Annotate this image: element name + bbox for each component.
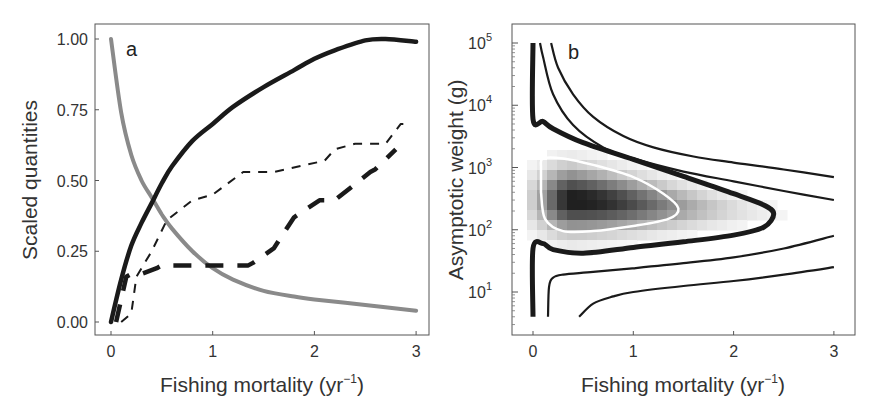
heatmap-cell [597, 210, 608, 221]
heatmap-cell [547, 200, 558, 211]
heatmap-cell [627, 230, 638, 241]
heatmap-cell [547, 180, 558, 191]
heatmap-cell [697, 200, 708, 211]
series-black-thick-dashed [116, 149, 396, 322]
heatmap-cell [577, 240, 588, 251]
heatmap-cell [737, 210, 748, 221]
heatmap-cell [607, 230, 618, 241]
heatmap-cell [547, 150, 558, 161]
panel-b: 0123101102103104105 b Asymptotic weight … [444, 24, 855, 396]
heatmap-cell [647, 200, 658, 211]
heatmap-cell [707, 220, 718, 231]
panel-a-label: a [126, 38, 138, 60]
panel-b-x-axis-label: Fishing mortality (yr−1) [581, 372, 785, 396]
heatmap-cell [567, 200, 578, 211]
series-black-solid-increasing [111, 39, 416, 322]
heatmap-cell [617, 210, 628, 221]
heatmap-cell [677, 190, 688, 201]
heatmap-cell [677, 220, 688, 231]
x-tick-label: 0 [529, 343, 538, 360]
heatmap-cell [527, 170, 538, 181]
heatmap-cell [527, 180, 538, 191]
heatmap-cell [577, 150, 588, 161]
y-tick-label: 103 [468, 156, 492, 177]
heatmap-cell [567, 170, 578, 181]
heatmap-cell [557, 170, 568, 181]
heatmap-cell [707, 190, 718, 201]
heatmap-cell [637, 200, 648, 211]
heatmap-cell [677, 230, 688, 241]
heatmap-cell [657, 180, 668, 191]
heatmap-cell [727, 200, 738, 211]
heatmap-cell [647, 190, 658, 201]
heatmap-cell [617, 160, 628, 171]
heatmap-cell [567, 220, 578, 231]
heatmap-cell [587, 240, 598, 251]
heatmap-cell [527, 200, 538, 211]
x-tick-label: 0 [107, 343, 116, 360]
x-tick-label: 3 [829, 343, 838, 360]
figure: 01230.000.250.500.751.00 a Scaled quanti… [0, 0, 873, 417]
heatmap-cell [567, 180, 578, 191]
heatmap-cell [587, 220, 598, 231]
y-tick-label: 102 [468, 218, 492, 239]
heatmap-cell [587, 150, 598, 161]
heatmap-cell [527, 190, 538, 201]
heatmap-cell [657, 200, 668, 211]
heatmap-cell [597, 170, 608, 181]
heatmap-cell [577, 210, 588, 221]
y-tick-label: 0.50 [57, 173, 88, 190]
heatmap-cell [647, 170, 658, 181]
heatmap-cell [527, 230, 538, 241]
heatmap-cell [597, 200, 608, 211]
heatmap-cell [597, 180, 608, 191]
heatmap-cell [537, 230, 548, 241]
heatmap-cell [687, 210, 698, 221]
heatmap-cell [577, 190, 588, 201]
y-tick-label: 104 [468, 93, 492, 114]
heatmap-cell [637, 190, 648, 201]
heatmap-cell [527, 160, 538, 171]
thin-contour-lower-2 [579, 267, 834, 317]
y-tick-label: 0.00 [57, 314, 88, 331]
panel-b-y-axis-label: Asymptotic weight (g) [444, 80, 467, 281]
heatmap-cell [567, 190, 578, 201]
heatmap-cell [687, 200, 698, 211]
x-tick-label: 3 [412, 343, 421, 360]
heatmap-cell [677, 180, 688, 191]
y-tick-label: 1.00 [57, 31, 88, 48]
heatmap-cell [567, 240, 578, 251]
panel-a-frame [95, 24, 429, 335]
heatmap-cell [607, 180, 618, 191]
heatmap-cell [697, 190, 708, 201]
heatmap-cell [627, 200, 638, 211]
heatmap-cell [587, 190, 598, 201]
heatmap-cell [557, 180, 568, 191]
heatmap-cell [627, 210, 638, 221]
y-tick-label: 0.75 [57, 102, 88, 119]
panel-a: 01230.000.250.500.751.00 a Scaled quanti… [18, 24, 429, 396]
heatmap-cell [647, 210, 658, 221]
panel-a-x-axis-label: Fishing mortality (yr−1) [160, 372, 364, 396]
heatmap-cell [577, 170, 588, 181]
heatmap-cell [617, 190, 628, 201]
heatmap-cell [587, 170, 598, 181]
heatmap-cell [587, 200, 598, 211]
y-tick-label: 101 [468, 280, 492, 301]
x-tick-label: 1 [629, 343, 638, 360]
heatmap-cell [657, 230, 668, 241]
x-tick-label: 1 [208, 343, 217, 360]
heatmap-cell [577, 180, 588, 191]
heatmap-cell [577, 200, 588, 211]
heatmap-cell [777, 210, 788, 221]
panel-a-y-axis-label: Scaled quantities [18, 100, 41, 260]
heatmap-cell [547, 230, 558, 241]
heatmap-cell [647, 230, 658, 241]
heatmap-cell [587, 180, 598, 191]
panel-a-series [111, 39, 416, 322]
heatmap-cell [747, 210, 758, 221]
heatmap-cell [557, 190, 568, 201]
heatmap-cell [547, 210, 558, 221]
heatmap-cell [567, 210, 578, 221]
heatmap-cell [707, 200, 718, 211]
